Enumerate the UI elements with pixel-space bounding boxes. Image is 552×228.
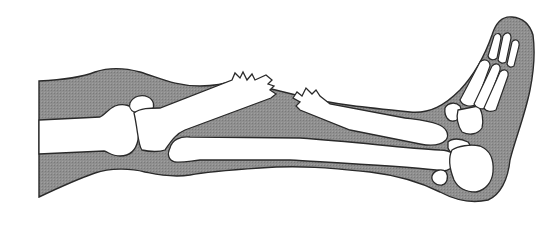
cuneiform-bone <box>457 106 483 134</box>
calcaneus-small-bone <box>432 170 448 185</box>
broken-leg-diagram <box>0 0 552 228</box>
